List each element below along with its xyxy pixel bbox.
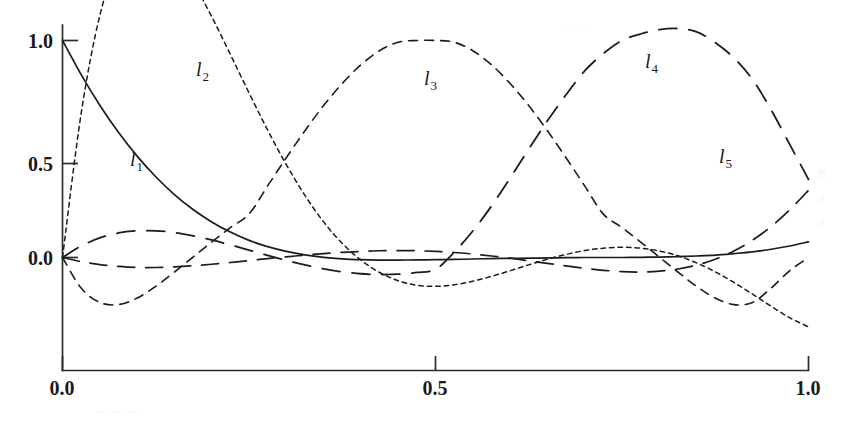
curve-label-l2-sub: 2 [203, 69, 210, 84]
curve-label-l4: l4 [645, 50, 659, 76]
curves-group [63, 0, 809, 327]
bleed-glyph: B [818, 166, 827, 181]
curve-label-l5-sub: 5 [726, 156, 733, 171]
axis-group [63, 25, 809, 371]
lagrange-basis-figure: B o n · · · · — — — 1.0 0.5 0.0 [0, 0, 841, 422]
curve-label-l1-sub: 1 [137, 159, 144, 174]
curve-label-l3-sub: 3 [431, 78, 438, 93]
bleed-glyph: · · · · [560, 22, 587, 37]
curve-label-l4-base: l [645, 50, 651, 72]
x-tick-label-0.0: 0.0 [50, 377, 75, 399]
x-tick-label-1.0: 1.0 [796, 377, 821, 399]
y-tick-label-0.5: 0.5 [28, 153, 53, 175]
bleed-glyph: n [818, 214, 825, 229]
x-tick-label-0.5: 0.5 [423, 377, 448, 399]
curve-label-l1-base: l [130, 148, 136, 170]
x-axis-tick-labels: 0.0 0.5 1.0 [50, 377, 821, 399]
curve-label-l3: l3 [424, 67, 437, 93]
curve-label-l1: l1 [130, 148, 143, 174]
curve-label-l4-sub: 4 [652, 61, 659, 76]
bleed-glyph: o [818, 190, 825, 205]
curve-label-l2: l2 [196, 58, 209, 84]
curve-label-l5-base: l [719, 145, 725, 167]
y-tick-label-0.0: 0.0 [28, 247, 53, 269]
curve-label-l3-base: l [424, 67, 430, 89]
bleed-glyph: — — — [94, 403, 142, 418]
curve-labels-group: l1 l2 l3 l4 l5 [130, 50, 732, 174]
curve-l4 [63, 28, 809, 274]
y-axis-tick-labels: 1.0 0.5 0.0 [28, 30, 53, 269]
chart-canvas: B o n · · · · — — — 1.0 0.5 0.0 [0, 0, 841, 422]
curve-label-l2-base: l [196, 58, 202, 80]
curve-label-l5: l5 [719, 145, 732, 171]
curve-l2 [63, 0, 809, 327]
y-tick-label-1.0: 1.0 [28, 30, 53, 52]
curve-l1 [63, 41, 809, 261]
